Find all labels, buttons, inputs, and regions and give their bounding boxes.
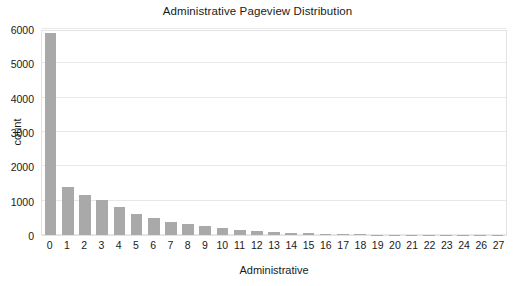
bar-slot [472,31,489,235]
x-tick-label: 23 [438,238,455,254]
bar [268,232,280,235]
y-tick-label: 1000 [11,196,34,208]
x-tick-label: 27 [490,238,507,254]
bar [217,228,229,235]
x-tick-label: 7 [162,238,179,254]
bar-slot [265,31,282,235]
bar-slot [59,31,76,235]
bar [182,224,194,235]
x-tick-label: 26 [473,238,490,254]
y-tick-label: 2000 [11,161,34,173]
bar [303,233,315,235]
bar [131,214,143,235]
x-tick-label: 17 [335,238,352,254]
bar-slot [283,31,300,235]
x-tick-label: 13 [265,238,282,254]
x-tick-label: 8 [179,238,196,254]
bar-slot [76,31,93,235]
bar-series [42,31,506,235]
bar-slot [403,31,420,235]
bar [389,235,401,236]
x-tick-label: 3 [93,238,110,254]
x-tick-label: 1 [58,238,75,254]
y-tick-label: 5000 [11,58,34,70]
bar [199,226,211,235]
bar [406,235,418,236]
x-tick-label: 9 [196,238,213,254]
bar [45,33,57,235]
bar [251,231,263,235]
bar-slot [420,31,437,235]
bar-slot [42,31,59,235]
x-tick-label: 15 [300,238,317,254]
bar-slot [317,31,334,235]
x-tick-label: 20 [386,238,403,254]
x-tick-label: 6 [145,238,162,254]
bar [62,187,74,235]
x-tick-label: 11 [231,238,248,254]
chart-title: Administrative Pageview Distribution [0,5,515,17]
x-tick-label: 18 [352,238,369,254]
bar-slot [386,31,403,235]
x-axis-tick-labels: 0123456789101112131415161718192021222324… [41,238,507,254]
bar-slot [94,31,111,235]
x-tick-label: 24 [455,238,472,254]
plot-area [41,30,507,236]
bar [337,234,349,235]
bar-slot [231,31,248,235]
bar [79,195,91,236]
y-tick-label: 0 [28,230,34,242]
bar [492,235,504,236]
bar [354,234,366,235]
bar-slot [248,31,265,235]
gridline [42,28,506,29]
chart-figure: Administrative Pageview Distribution cou… [0,0,515,286]
bar-slot [111,31,128,235]
bar [165,222,177,235]
bar-slot [369,31,386,235]
bar [440,235,452,236]
bar-slot [128,31,145,235]
x-tick-label: 2 [76,238,93,254]
bar [457,235,469,236]
x-tick-label: 19 [369,238,386,254]
y-tick-label: 3000 [11,127,34,139]
bar-slot [180,31,197,235]
bar [371,235,383,236]
bar-slot [300,31,317,235]
bar-slot [437,31,454,235]
x-tick-label: 22 [421,238,438,254]
x-tick-label: 16 [317,238,334,254]
bar-slot [197,31,214,235]
x-tick-label: 4 [110,238,127,254]
y-axis-tick-labels: 0100020003000400050006000 [0,0,36,286]
x-axis-title: Administrative [41,264,507,276]
x-tick-label: 21 [404,238,421,254]
x-tick-label: 0 [41,238,58,254]
bar [423,235,435,236]
bar [96,200,108,235]
y-tick-label: 6000 [11,24,34,36]
x-tick-label: 14 [283,238,300,254]
bar [320,234,332,235]
y-tick-label: 4000 [11,93,34,105]
bar [234,230,246,235]
bar-slot [455,31,472,235]
bar [148,218,160,235]
x-tick-label: 10 [214,238,231,254]
bar-slot [351,31,368,235]
x-tick-label: 12 [248,238,265,254]
bar-slot [214,31,231,235]
bar-slot [334,31,351,235]
x-tick-label: 5 [127,238,144,254]
bar [114,207,126,235]
bar-slot [162,31,179,235]
bar [474,235,486,236]
bar [285,233,297,235]
bar-slot [145,31,162,235]
bar-slot [489,31,506,235]
